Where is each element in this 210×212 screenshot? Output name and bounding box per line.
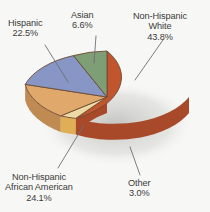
slice-label-other: Other 3.0% <box>128 178 150 199</box>
slice-label-name-line1: Non-Hispanic <box>5 172 73 182</box>
slice-label-percent: 3.0% <box>128 188 150 198</box>
slice-side-other <box>61 116 76 134</box>
slice-label-percent: 6.6% <box>71 20 93 30</box>
slice-label-hispanic: Hispanic 22.5% <box>8 18 42 39</box>
slice-label-non-hispanic-white: Non-Hispanic White 43.8% <box>133 11 187 42</box>
slice-label-name-line1: Asian <box>71 10 93 20</box>
slice-label-name-line2: African American <box>5 182 73 192</box>
slice-label-percent: 24.1% <box>5 193 73 203</box>
leader-line-non-hispanic-white <box>135 40 163 80</box>
slice-label-name-line2: White <box>133 21 187 31</box>
pie-chart: Non-Hispanic White 43.8% Asian 6.6% Hisp… <box>0 0 210 212</box>
slice-label-asian: Asian 6.6% <box>71 10 93 31</box>
slice-label-non-hispanic-african-american: Non-Hispanic African American 24.1% <box>5 172 73 203</box>
slice-label-name-line1: Hispanic <box>8 18 42 28</box>
slice-label-percent: 43.8% <box>133 32 187 42</box>
slice-label-name-line1: Other <box>128 178 150 188</box>
slice-label-name-line1: Non-Hispanic <box>133 11 187 21</box>
slice-label-percent: 22.5% <box>8 28 42 38</box>
